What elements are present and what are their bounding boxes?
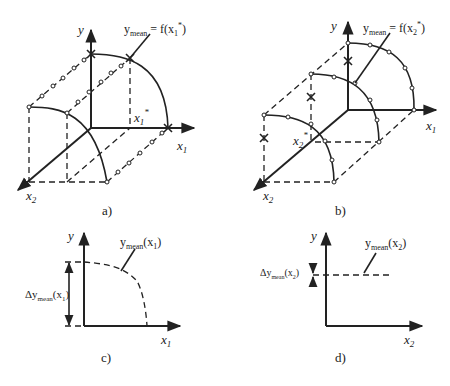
dashed-floor (67, 128, 130, 182)
annotation-leader (355, 33, 390, 83)
y-label: y (66, 228, 74, 243)
curve-label: ymean(x2) (365, 236, 406, 252)
x1star-label: x1* (133, 107, 149, 127)
x1-label: x1 (425, 118, 436, 135)
annotation-label: ymean = f(x1*) (124, 21, 186, 38)
curve-label: ymean(x1) (120, 235, 161, 251)
caption-c: c) (101, 350, 111, 365)
annotation-label: ymean = f(x2*) (363, 20, 425, 37)
curve-leader (364, 253, 376, 273)
panel-c: y ymean(x1) Δymean(x1) x1 c) (25, 228, 180, 365)
y-label: y (76, 22, 84, 37)
figure-canvas: y ymean = f(x1*) x1* x1 x2 a) (0, 0, 450, 386)
curve-leader (121, 249, 135, 271)
x2-label: x2 (262, 188, 274, 205)
y-label: y (329, 18, 337, 33)
panel-a: y ymean = f(x1*) x1* x1 x2 a) (18, 21, 194, 218)
panel-d: y ymean(x2) Δymean(x2) x2 d) (260, 228, 422, 365)
dashed-edge-right (107, 128, 168, 182)
delta-label: Δymean(x1) (25, 288, 69, 303)
x1-label: x1 (176, 138, 187, 155)
x2-label: x2 (403, 332, 415, 349)
panel-b: y ymean = f(x2*) x2* x1 x2 b) (254, 18, 436, 218)
ymean-x1-curve (84, 262, 147, 326)
curve-back (348, 43, 414, 110)
dashed-right-edge (334, 110, 414, 182)
caption-b: b) (335, 203, 346, 218)
y-label: y (309, 228, 317, 243)
x2-label: x2 (25, 188, 37, 205)
x1-label: x1 (160, 332, 171, 349)
caption-a: a) (102, 203, 112, 218)
delta-label: Δymean(x2) (260, 267, 299, 280)
caption-d: d) (335, 350, 346, 365)
dashed-edge-top (29, 54, 91, 107)
